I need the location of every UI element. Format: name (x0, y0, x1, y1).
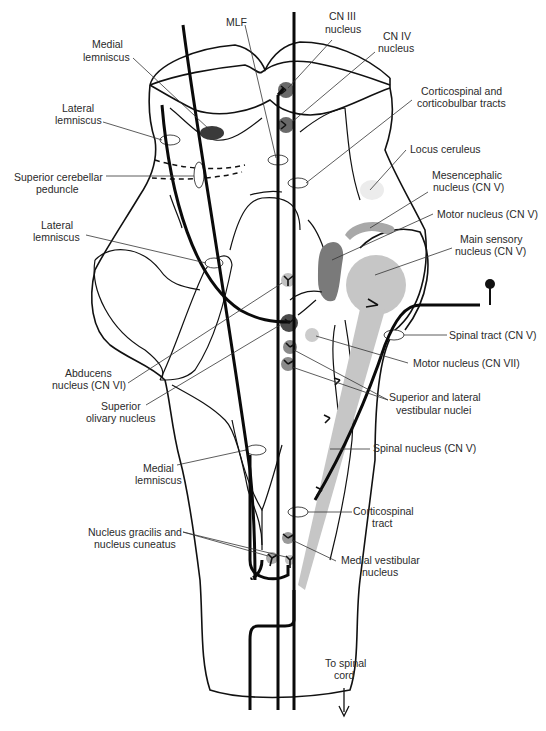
medial-lemniscus-dark-nucleus (200, 126, 224, 140)
label-main-sensory-line2: nucleus (CN V) (455, 245, 526, 257)
label-medial-lemniscus-bot-line2: lemniscus (135, 474, 182, 486)
label-medial-vestibular-line1: Medial vestibular (341, 554, 420, 566)
corticospinal-tract-oval (288, 507, 308, 517)
label-cn4-line1: CN IV (383, 30, 411, 42)
label-locus-ceruleus: Locus ceruleus (410, 143, 481, 155)
label-gracilis-cuneatus-line1: Nucleus gracilis and (88, 526, 182, 538)
locus-ceruleus (360, 180, 384, 200)
label-motor-cn5: Motor nucleus (CN V) (437, 208, 538, 220)
label-medial-lemniscus-top-line1: Medial (92, 38, 123, 50)
left-descending-tract (183, 25, 255, 580)
label-gracilis-cuneatus-line2: nucleus cuneatus (94, 538, 176, 550)
label-mlf: MLF (226, 16, 247, 28)
label-lateral-lemniscus-mid-line1: Lateral (41, 219, 73, 231)
label-medial-vestibular-line2: nucleus (362, 566, 398, 578)
ganglion-cell-body (485, 279, 495, 289)
brainstem-diagram: MLF CN III nucleus CN IV nucleus Medial … (0, 0, 546, 731)
label-superior-olivary-line2: olivary nucleus (86, 412, 155, 424)
label-lateral-lemniscus-top-line1: Lateral (62, 102, 94, 114)
label-lateral-lemniscus-mid-line2: lemniscus (33, 231, 80, 243)
label-spinal-tract-cn5: Spinal tract (CN V) (449, 329, 537, 341)
label-lateral-lemniscus-top-line2: lemniscus (55, 114, 102, 126)
mesencephalic-nucleus-cn5 (345, 222, 394, 240)
label-to-spinal-cord-line2: cord (334, 669, 355, 681)
label-corticospinal-bulbar-line1: Corticospinal and (421, 85, 502, 97)
label-abducens-line1: Abducens (65, 367, 112, 379)
label-spinal-nucleus-cn5: Spinal nucleus (CN V) (373, 442, 476, 454)
descending-to-cord (250, 590, 294, 710)
label-medial-lemniscus-bot-line1: Medial (143, 462, 174, 474)
label-mesencephalic-line1: Mesencephalic (432, 169, 502, 181)
label-to-spinal-cord-line1: To spinal (325, 657, 366, 669)
label-superior-olivary-line1: Superior (101, 400, 141, 412)
label-medial-lemniscus-top-line2: lemniscus (83, 51, 130, 63)
label-superior-cerebellar-line2: peduncle (36, 183, 79, 195)
label-sup-lat-vestibular-line1: Superior and lateral (389, 391, 481, 403)
label-motor-cn7: Motor nucleus (CN VII) (413, 357, 520, 369)
lateral-lemniscus-top-oval (160, 135, 180, 145)
label-corticospinal-bulbar-line2: corticobulbar tracts (417, 97, 506, 109)
label-corticospinal-tract-line2: tract (372, 517, 393, 529)
label-sup-lat-vestibular-line2: vestibular nuclei (396, 404, 471, 416)
label-superior-cerebellar-line1: Superior cerebellar (14, 171, 103, 183)
labels: MLF CN III nucleus CN IV nucleus Medial … (14, 10, 538, 681)
label-cn3-line1: CN III (329, 10, 356, 22)
label-cn3-line2: nucleus (325, 23, 361, 35)
label-cn4-line2: nucleus (378, 42, 414, 54)
motor-nucleus-cn7 (305, 328, 319, 342)
label-main-sensory-line1: Main sensory (460, 233, 523, 245)
label-corticospinal-tract-line1: Corticospinal (353, 505, 414, 517)
abducens-crossing-tract (162, 105, 290, 322)
corticospinal-bulbar-oval (288, 178, 308, 188)
label-abducens-line2: nucleus (CN VI) (52, 379, 126, 391)
label-mesencephalic-line2: nucleus (CN V) (433, 181, 504, 193)
